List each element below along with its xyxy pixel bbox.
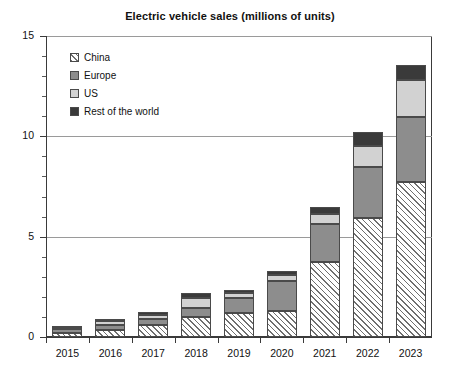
x-tick-label-2023: 2023	[388, 347, 434, 359]
legend-item-europe[interactable]: Europe	[70, 68, 159, 83]
legend-item-china[interactable]: China	[70, 50, 159, 65]
x-tick-label-2015: 2015	[44, 347, 90, 359]
bar-segment-2020-us[interactable]	[267, 275, 297, 281]
y-tick-9	[42, 156, 46, 157]
y-tick-8	[42, 176, 46, 177]
bar-segment-2021-china[interactable]	[310, 262, 340, 337]
x-tick-label-2019: 2019	[216, 347, 262, 359]
bar-segment-2017-us[interactable]	[138, 315, 168, 319]
x-axis-line	[46, 337, 432, 338]
y-tick-2	[42, 297, 46, 298]
legend-swatch-us	[70, 89, 79, 98]
y-tick-7	[42, 197, 46, 198]
x-tick-label-2018: 2018	[173, 347, 219, 359]
bar-segment-2016-china[interactable]	[95, 330, 125, 337]
y-tick-label-15: 15	[8, 29, 34, 41]
bar-segment-2017-europe[interactable]	[138, 319, 168, 325]
bar-segment-2022-us[interactable]	[353, 146, 383, 167]
bar-segment-2015-rest-of-the-world[interactable]	[52, 326, 82, 328]
y-tick-label-0: 0	[8, 330, 34, 342]
x-tick-label-2017: 2017	[130, 347, 176, 359]
bar-segment-2023-us[interactable]	[396, 80, 426, 117]
legend-label: US	[84, 89, 98, 99]
bar-2016[interactable]	[95, 319, 125, 337]
x-tick-label-2021: 2021	[302, 347, 348, 359]
legend-label: Europe	[84, 71, 116, 81]
x-tick-2022	[346, 338, 347, 343]
bar-segment-2015-europe[interactable]	[52, 329, 82, 333]
bar-segment-2016-rest-of-the-world[interactable]	[95, 319, 125, 321]
bar-2017[interactable]	[138, 312, 168, 337]
x-tick-2023	[389, 338, 390, 343]
bar-segment-2022-rest-of-the-world[interactable]	[353, 132, 383, 146]
legend-swatch-china	[70, 53, 79, 62]
y-tick-14	[42, 56, 46, 57]
bar-segment-2019-rest-of-the-world[interactable]	[224, 290, 254, 293]
bar-segment-2021-europe[interactable]	[310, 224, 340, 262]
y-tick-label-10: 10	[8, 129, 34, 141]
x-tick-2019	[218, 338, 219, 343]
y-tick-10	[40, 136, 46, 137]
y-tick-6	[42, 217, 46, 218]
bar-segment-2015-china[interactable]	[52, 333, 82, 337]
bar-segment-2019-europe[interactable]	[224, 298, 254, 313]
bar-segment-2018-rest-of-the-world[interactable]	[181, 293, 211, 298]
bar-segment-2020-europe[interactable]	[267, 281, 297, 311]
y-tick-13	[42, 76, 46, 77]
bar-segment-2016-us[interactable]	[95, 321, 125, 325]
bar-segment-2020-china[interactable]	[267, 311, 297, 337]
x-tick-2016	[89, 338, 90, 343]
y-tick-4	[42, 257, 46, 258]
chart-title: Electric vehicle sales (millions of unit…	[0, 10, 460, 22]
y-tick-1	[42, 317, 46, 318]
bar-2022[interactable]	[353, 132, 383, 337]
y-tick-15	[40, 36, 46, 37]
x-tick-2018	[175, 338, 176, 343]
legend-item-us[interactable]: US	[70, 86, 159, 101]
y-tick-5	[40, 237, 46, 238]
bar-segment-2022-europe[interactable]	[353, 167, 383, 217]
bar-segment-2023-rest-of-the-world[interactable]	[396, 65, 426, 80]
bar-segment-2021-rest-of-the-world[interactable]	[310, 207, 340, 214]
x-tick-label-2020: 2020	[259, 347, 305, 359]
x-tick-2021	[303, 338, 304, 343]
bar-segment-2018-us[interactable]	[181, 298, 211, 308]
bar-2023[interactable]	[396, 65, 426, 337]
y-tick-12	[42, 96, 46, 97]
bar-2020[interactable]	[267, 271, 297, 337]
bar-segment-2019-us[interactable]	[224, 293, 254, 298]
bar-segment-2020-rest-of-the-world[interactable]	[267, 271, 297, 275]
legend-label: Rest of the world	[84, 107, 159, 117]
bar-segment-2021-us[interactable]	[310, 214, 340, 224]
legend-swatch-europe	[70, 71, 79, 80]
bar-2019[interactable]	[224, 290, 254, 337]
bar-segment-2017-rest-of-the-world[interactable]	[138, 312, 168, 315]
bar-2015[interactable]	[52, 326, 82, 337]
x-tick-label-2022: 2022	[345, 347, 391, 359]
legend: ChinaEuropeUSRest of the world	[70, 50, 159, 122]
bar-2018[interactable]	[181, 293, 211, 337]
bar-segment-2018-europe[interactable]	[181, 308, 211, 317]
bar-segment-2017-china[interactable]	[138, 325, 168, 337]
y-tick-11	[42, 116, 46, 117]
x-tick-2015	[46, 338, 47, 343]
legend-label: China	[84, 53, 110, 63]
bar-segment-2016-europe[interactable]	[95, 325, 125, 330]
x-tick-2017	[132, 338, 133, 343]
bar-segment-2019-china[interactable]	[224, 313, 254, 337]
chart-root: Electric vehicle sales (millions of unit…	[0, 0, 460, 378]
x-tick-2020	[260, 338, 261, 343]
y-tick-label-5: 5	[8, 230, 34, 242]
x-tick-label-2016: 2016	[87, 347, 133, 359]
bar-segment-2022-china[interactable]	[353, 218, 383, 337]
bar-2021[interactable]	[310, 207, 340, 337]
bar-segment-2023-china[interactable]	[396, 182, 426, 337]
legend-swatch-rest-of-the-world	[70, 107, 79, 116]
y-tick-3	[42, 277, 46, 278]
bar-segment-2018-china[interactable]	[181, 317, 211, 337]
bar-segment-2023-europe[interactable]	[396, 117, 426, 182]
y-axis-line	[46, 36, 47, 337]
gridline-15	[46, 36, 432, 37]
legend-item-rest-of-the-world[interactable]: Rest of the world	[70, 104, 159, 119]
